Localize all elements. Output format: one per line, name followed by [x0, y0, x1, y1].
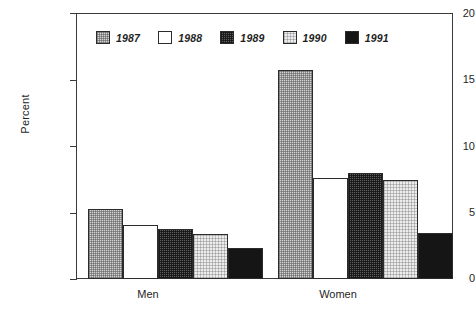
legend-swatch-1990-icon: [283, 31, 297, 44]
y-axis-tick-0: [70, 279, 77, 280]
legend: 1987 1988 1989 1990 1991: [96, 31, 389, 44]
bars-layer: [77, 14, 452, 279]
x-axis-label-men: Men: [108, 288, 188, 300]
legend-label-1988: 1988: [178, 32, 202, 44]
legend-item-1988: 1988: [158, 31, 202, 44]
legend-swatch-1989-icon: [220, 31, 234, 44]
bar-women-1991: [418, 233, 453, 279]
legend-swatch-1987-icon: [96, 31, 110, 44]
x-axis-label-women: Women: [298, 288, 378, 300]
legend-swatch-1988-icon: [158, 31, 172, 44]
legend-item-1990: 1990: [283, 31, 327, 44]
bar-men-1990: [193, 234, 228, 279]
legend-label-1989: 1989: [240, 32, 264, 44]
bar-women-1987: [278, 70, 313, 279]
bar-women-1988: [313, 178, 348, 279]
legend-label-1991: 1991: [365, 32, 389, 44]
legend-swatch-1991-icon: [345, 31, 359, 44]
legend-item-1991: 1991: [345, 31, 389, 44]
bar-women-1989: [348, 173, 383, 279]
bar-men-1988: [123, 225, 158, 279]
y-axis-title: Percent: [19, 69, 31, 159]
legend-label-1987: 1987: [116, 32, 140, 44]
bar-women-1990: [383, 180, 418, 279]
bar-chart: Percent 20 15 10 5 0 1987 19: [0, 0, 475, 320]
legend-label-1990: 1990: [303, 32, 327, 44]
bar-men-1991: [228, 248, 263, 279]
bar-men-1989: [158, 229, 193, 279]
bar-men-1987: [88, 209, 123, 279]
legend-item-1987: 1987: [96, 31, 140, 44]
legend-item-1989: 1989: [220, 31, 264, 44]
